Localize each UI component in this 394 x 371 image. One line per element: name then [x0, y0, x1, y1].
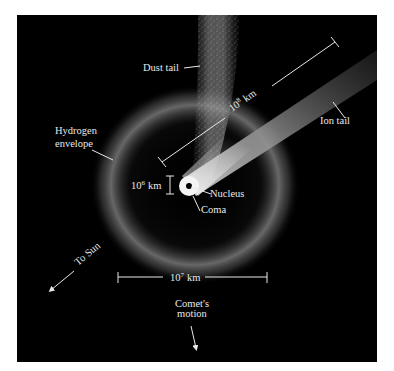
ion-tail-label: Ion tail: [320, 115, 350, 126]
hydrogen-envelope-label-2: envelope: [55, 138, 93, 149]
comet-motion-label-2: motion: [177, 308, 208, 319]
dust-tail-label: Dust tail: [143, 62, 179, 73]
comet-diagram: 108km 106km 107km Dust tail Ion tail Hyd…: [0, 0, 394, 371]
coma-label: Coma: [201, 204, 226, 215]
nucleus: [186, 183, 192, 189]
hydrogen-envelope-label-1: Hydrogen: [55, 125, 98, 136]
nucleus-label: Nucleus: [210, 188, 244, 199]
